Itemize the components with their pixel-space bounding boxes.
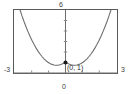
plot-canvas (0, 0, 132, 94)
x-min-label: -3 (4, 66, 10, 73)
vertex-point-label: (0, 1) (67, 64, 83, 71)
graph-figure: 6 -3 3 0 (0, 1) (0, 0, 132, 94)
x-max-label: 3 (121, 66, 125, 73)
y-max-label: 6 (59, 1, 63, 8)
origin-label: 0 (62, 83, 66, 90)
